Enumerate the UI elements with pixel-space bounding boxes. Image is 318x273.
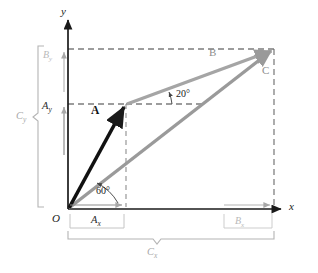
component-bx-subscript: x bbox=[241, 221, 244, 229]
component-cy-subscript: y bbox=[23, 115, 26, 124]
component-bx-label: Bx bbox=[235, 216, 244, 229]
component-ax-subscript: x bbox=[97, 219, 100, 228]
component-ax-label: Ax bbox=[91, 215, 101, 228]
component-cx-subscript: x bbox=[154, 251, 157, 260]
angle-20-label: 20° bbox=[176, 89, 190, 99]
bracket-cx bbox=[68, 231, 274, 244]
axes bbox=[68, 20, 281, 209]
vector-b-label: B bbox=[209, 47, 216, 58]
vector-b-arrow bbox=[127, 51, 271, 104]
component-ay-subscript: y bbox=[48, 105, 51, 114]
x-axis-label: x bbox=[289, 201, 294, 212]
origin-label: O bbox=[52, 213, 60, 224]
y-axis-label: y bbox=[61, 6, 66, 17]
vector-diagram: x y O A B C 60° 20° Ay By Cy Ax Bx Cx bbox=[0, 0, 318, 273]
vector-a-label: A bbox=[91, 105, 99, 117]
component-ay-label: Ay bbox=[42, 101, 52, 114]
component-by-subscript: y bbox=[49, 55, 52, 63]
component-by-label: By bbox=[43, 50, 52, 63]
component-cy-label: Cy bbox=[16, 111, 26, 124]
bracket-cy bbox=[33, 46, 44, 207]
component-cy-symbol: C bbox=[16, 110, 23, 121]
bracket-bx bbox=[224, 214, 272, 228]
vector-c-label: C bbox=[262, 65, 269, 76]
angle-60-label: 60° bbox=[96, 186, 110, 196]
angle-20-marker bbox=[169, 92, 172, 104]
component-cx-symbol: C bbox=[147, 246, 154, 257]
diagram-canvas bbox=[0, 0, 318, 273]
component-cx-label: Cx bbox=[147, 247, 157, 260]
angle-20-arc bbox=[169, 92, 172, 104]
